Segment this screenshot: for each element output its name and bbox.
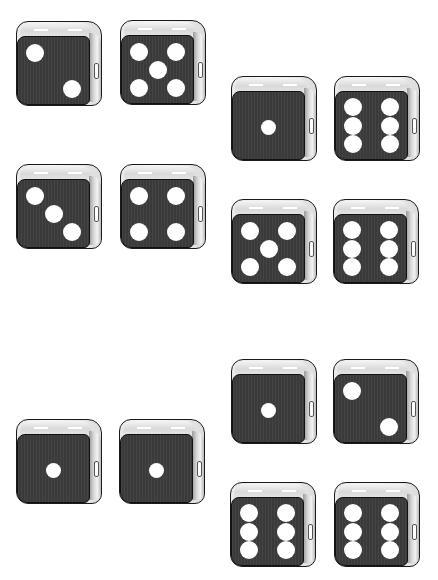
pip-icon [381,117,399,135]
pip-icon [167,43,185,61]
pip-icon [241,258,259,276]
die-face [334,374,407,443]
pip-icon [260,240,278,258]
pip-icon [130,79,148,97]
die-side-bevel [304,211,316,280]
pip-icon [46,463,61,478]
pip-icon [45,205,63,223]
pip-icon [149,463,164,478]
die-face [121,35,194,104]
die-side-bevel [193,176,205,245]
die-side-bevel [407,494,419,563]
pip-icon [26,187,44,205]
die-5-pips [231,199,317,284]
die-side-bevel [406,211,418,280]
pip-icon [344,504,362,522]
pip-icon [381,135,399,153]
pip-icon [167,79,185,97]
pip-icon [261,403,276,418]
die-6-pips [334,76,420,161]
pip-icon [343,382,361,400]
pip-icon [380,418,398,436]
pip-icon [63,223,81,241]
pip-icon [381,504,399,522]
die-side-bevel [304,88,316,157]
die-face [121,179,194,248]
pip-icon [381,98,399,116]
pip-icon [343,240,361,258]
pip-icon [344,98,362,116]
pip-icon [277,504,295,522]
die-face [17,36,90,105]
pip-icon [261,120,276,135]
die-2-pips [333,359,419,444]
pip-icon [278,222,296,240]
die-side-bevel [407,88,419,157]
pip-icon [380,258,398,276]
pip-icon [240,504,258,522]
pip-icon [26,44,44,62]
pip-icon [343,221,361,239]
die-5-pips [120,20,206,105]
die-6-pips [334,482,420,567]
die-side-bevel [192,431,204,500]
die-4-pips [120,164,206,249]
die-side-bevel [89,33,101,102]
die-1-pips [16,419,102,504]
pip-icon [277,523,295,541]
pip-icon [167,187,185,205]
die-1-pips [231,76,317,161]
pip-icon [277,541,295,559]
pip-icon [130,43,148,61]
pip-icon [240,541,258,559]
die-face [232,91,305,160]
pip-icon [344,541,362,559]
pip-icon [240,523,258,541]
die-1-pips [119,419,205,504]
pip-icon [381,523,399,541]
die-side-bevel [304,371,316,440]
die-face [17,179,90,248]
die-side-bevel [406,371,418,440]
die-face [232,214,305,283]
pip-icon [344,523,362,541]
pip-icon [130,187,148,205]
die-side-bevel [89,176,101,245]
pip-icon [344,117,362,135]
pip-icon [343,258,361,276]
pip-icon [149,61,167,79]
die-face [335,497,408,566]
pip-icon [380,221,398,239]
pip-icon [241,222,259,240]
die-6-pips [333,199,419,284]
die-side-bevel [89,431,101,500]
die-face [17,434,90,503]
pip-icon [381,541,399,559]
die-6-pips [230,482,316,567]
pip-icon [130,223,148,241]
die-side-bevel [303,494,315,563]
pip-icon [380,240,398,258]
die-side-bevel [193,32,205,101]
die-face [120,434,193,503]
die-face [335,91,408,160]
die-face [232,374,305,443]
die-2-pips [16,21,102,106]
pip-icon [344,135,362,153]
pip-icon [63,80,81,98]
die-3-pips [16,164,102,249]
pip-icon [167,223,185,241]
die-face [231,497,304,566]
pip-icon [278,258,296,276]
die-1-pips [231,359,317,444]
die-face [334,214,407,283]
